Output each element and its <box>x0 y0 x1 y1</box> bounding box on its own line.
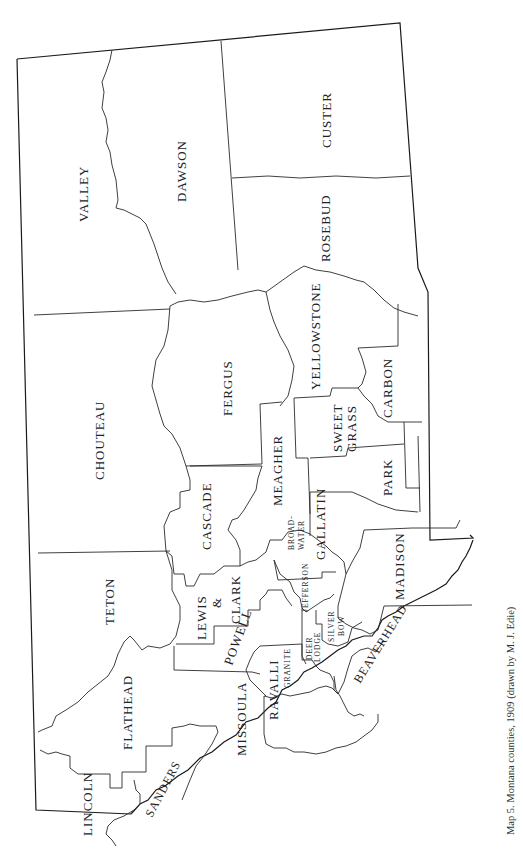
label-lewisclark-2: & <box>209 597 224 608</box>
county-labels: VALLEY DAWSON CUSTER ROSEBUD CHOUTEAU FE… <box>0 0 523 849</box>
label-deerlodge-2: LODGE <box>313 632 322 662</box>
label-cascade: CASCADE <box>199 482 214 550</box>
label-broadwater-2: WATER <box>297 520 306 550</box>
label-powell: POWELL <box>221 607 255 667</box>
label-valley: VALLEY <box>76 166 91 222</box>
label-chouteau: CHOUTEAU <box>92 401 107 481</box>
label-silverbow-2: BOW <box>337 616 346 637</box>
label-dawson: DAWSON <box>174 140 189 202</box>
label-gallatin: GALLATIN <box>313 488 328 560</box>
label-broadwater-1: BROAD- <box>287 515 296 550</box>
label-sweetgrass-1: SWEET <box>330 404 345 452</box>
label-sanders: SANDERS <box>142 758 183 819</box>
label-flathead: FLATHEAD <box>120 675 135 750</box>
label-fergus: FERGUS <box>220 360 235 416</box>
map-caption: Map 5. Montana counties, 1909 (drawn by … <box>505 607 516 835</box>
label-ravalli: RAVALLI <box>266 659 281 720</box>
label-lewisclark-1: LEWIS <box>194 595 209 640</box>
label-sweetgrass-2: GRASS <box>344 405 359 452</box>
label-silverbow-1: SILVER <box>327 610 336 642</box>
label-missoula: MISSOULA <box>234 682 249 756</box>
label-lincoln: LINCOLN <box>80 772 95 836</box>
label-granite: GRANITE <box>283 648 292 688</box>
label-carbon: CARBON <box>380 358 395 418</box>
label-yellowstone: YELLOWSTONE <box>308 282 323 390</box>
label-custer: CUSTER <box>319 92 334 148</box>
label-madison: MADISON <box>392 532 407 600</box>
label-jefferson: JEFFERSON <box>301 563 310 612</box>
label-meagher: MEAGHER <box>270 435 285 506</box>
label-teton: TETON <box>102 578 117 625</box>
label-beaverhead: BEAVERHEAD <box>351 602 410 686</box>
label-rosebud: ROSEBUD <box>318 194 333 262</box>
label-park: PARK <box>380 459 395 496</box>
